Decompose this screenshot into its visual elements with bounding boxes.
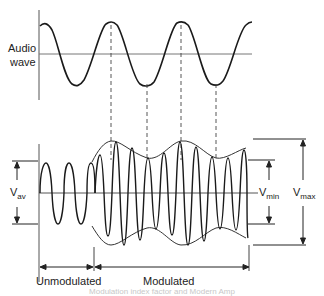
v-av-sub: av bbox=[17, 192, 25, 201]
v-av-label: Vav bbox=[10, 186, 26, 200]
v-min-sub: min bbox=[266, 192, 279, 201]
figure-caption-partial: Modulation index factor and Modern Amp bbox=[0, 287, 324, 296]
v-max-label: Vmax bbox=[293, 186, 315, 200]
v-max-sub: max bbox=[300, 192, 315, 201]
audio-wave-label-line1: Audio bbox=[8, 42, 36, 54]
unmodulated-span-arrow bbox=[40, 265, 93, 270]
envelope-lower bbox=[92, 226, 246, 245]
modulated-span-arrow bbox=[95, 265, 249, 270]
audio-wave-label-line2: wave bbox=[10, 56, 36, 68]
modulated-label: Modulated bbox=[143, 275, 194, 287]
unmodulated-label: Unmodulated bbox=[36, 275, 101, 287]
projection-lines bbox=[111, 25, 216, 160]
v-min-label: Vmin bbox=[259, 186, 279, 200]
